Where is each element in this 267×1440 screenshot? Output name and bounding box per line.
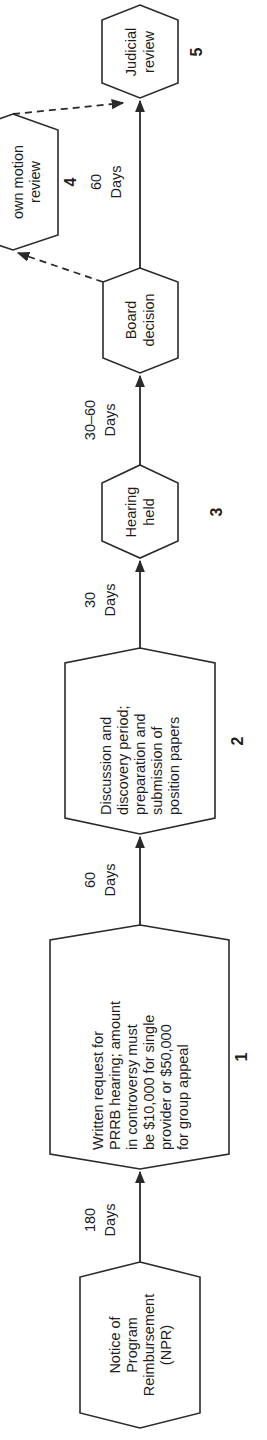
duration-label: 60 (82, 872, 98, 888)
step1-text-line: PRRB hearing; amount (107, 1001, 123, 1150)
npr-text-line: Program (124, 1317, 140, 1373)
step1-step-number: 1 (233, 1052, 250, 1061)
step2-text-line: submission of (149, 725, 165, 815)
hearing-box (102, 465, 178, 558)
step2-text-line: position papers (166, 717, 182, 815)
step1-box (50, 925, 229, 1169)
duration-label: Days (102, 863, 118, 896)
duration-label: Days (102, 583, 118, 616)
judicial-review-box (102, 5, 178, 98)
step3-text-line: Hearing (123, 487, 139, 538)
step4-step-number: 4 (62, 177, 79, 186)
step1-text-line: provider or $50,000 (158, 1024, 174, 1150)
duration-label: Days (108, 165, 124, 198)
step2-text-line: discovery period; (115, 705, 131, 815)
step3-step-number: 3 (208, 507, 225, 516)
step3-text-line: held (141, 498, 157, 525)
step4-text-line: review (27, 161, 43, 203)
board-text-line: decision (141, 293, 157, 346)
step1-text-line: Written request for (90, 1031, 106, 1150)
duration-label: 60 (88, 174, 104, 190)
flowchart: Notice ofProgramReimbursement(NPR)Writte… (0, 0, 267, 1440)
dashed-arrow-step4-to-step5 (13, 103, 123, 114)
duration-label: Days (102, 1203, 118, 1236)
npr-text-line: (NPR) (158, 1325, 174, 1365)
step5-step-number: 5 (188, 47, 205, 56)
step2-step-number: 2 (229, 736, 246, 745)
dashed-arrow-board-to-step4 (18, 253, 103, 282)
duration-label: 180 (82, 1208, 98, 1232)
npr-text-line: Reimbursement (141, 1294, 157, 1396)
duration-label: 30 (82, 592, 98, 608)
step5-text-line: Judicial (123, 28, 139, 76)
step5-text-line: review (141, 31, 157, 73)
duration-label: Days (102, 403, 118, 436)
npr-text-line: Notice of (107, 1315, 123, 1373)
board-text-line: Board (123, 301, 139, 340)
step1-text-line: be $10,000 for single (141, 1015, 157, 1150)
step1-text-line: in controversy must (124, 1024, 140, 1150)
duration-label: 30–60 (82, 400, 98, 440)
step1-text-line: for group appeal (175, 1044, 191, 1150)
step2-text-line: preparation and (132, 713, 148, 815)
step4-text-line: own motion (10, 145, 26, 219)
step2-text-line: Discussion and (98, 717, 114, 815)
